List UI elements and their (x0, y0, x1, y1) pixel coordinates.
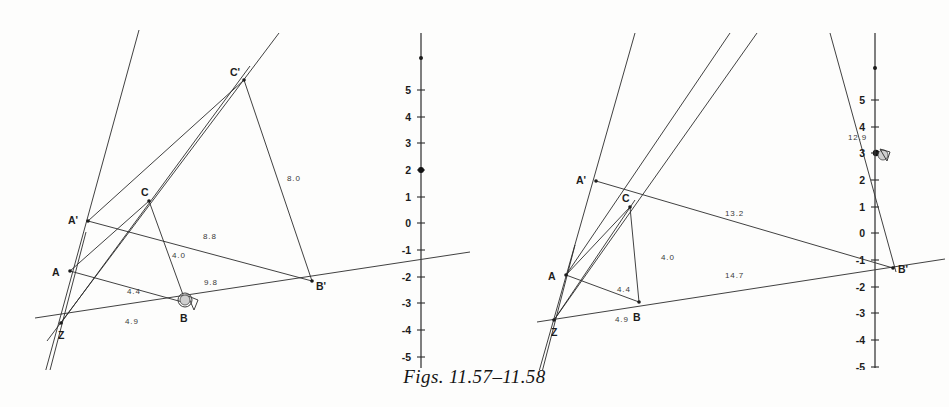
segment-a-prime-b-prime (88, 221, 312, 281)
vertex-dots-left (59, 78, 314, 325)
construction-rays-right (537, 33, 945, 370)
tick-label-5: 5 (859, 94, 865, 106)
tick-label-4: 4 (859, 121, 865, 133)
length-label-b-b-prime: 9.8 (204, 278, 218, 287)
y-axis-right: 5 4 3 2 1 0 -1 -2 -3 -4 -5 (856, 33, 879, 370)
axis-marked-point-2 (418, 167, 424, 173)
ray-z-through-upper-right (566, 33, 730, 275)
point-label-a: A (548, 270, 556, 282)
ray-z-c (554, 200, 635, 320)
segment-a-prime-b-prime (596, 181, 893, 268)
axis-marked-point-top (873, 66, 877, 70)
length-label-a-prime-b-prime: 13.2 (725, 209, 744, 218)
tick-label-1: 1 (405, 191, 411, 203)
point-label-a-prime: A' (576, 174, 586, 186)
triangle-a-prime-b-prime-c-prime (88, 80, 312, 281)
point-label-b-prime: B' (316, 280, 326, 292)
length-label-b-c: 4.0 (172, 251, 186, 260)
tick-label-3: 3 (859, 147, 865, 159)
length-label-b-b-prime: 14.7 (725, 271, 744, 280)
figure-caption: Figs. 11.57–11.58 (0, 366, 949, 388)
ray-z-c-c-prime (61, 66, 250, 323)
tick-label-1: 1 (859, 201, 865, 213)
tick-label-0: 0 (859, 227, 865, 239)
point-label-c: C (141, 186, 149, 198)
figure-left-canvas: 5 4 3 2 1 0 -1 -2 -3 -4 -5 (0, 0, 475, 370)
tick-label-m4: -4 (856, 334, 865, 346)
point-label-a: A (52, 266, 60, 278)
tick-label-2: 2 (859, 174, 865, 186)
tick-label-m3: -3 (856, 307, 865, 319)
point-label-c-prime: C' (230, 66, 240, 78)
tick-label-m5: -5 (402, 351, 411, 363)
point-label-b: B (633, 311, 641, 323)
point-label-z: Z (58, 329, 65, 341)
length-label-b-prime-c-prime: 8.0 (287, 174, 301, 183)
figure-right-panel: 5 4 3 2 1 0 -1 -2 -3 -4 -5 (475, 0, 949, 370)
length-label-z-b: 4.9 (615, 315, 629, 324)
point-marker-at-b (178, 293, 192, 307)
triangle-a-prime-b-prime-right (596, 181, 893, 268)
tick-label-m3: -3 (402, 297, 411, 309)
figure-left-panel: 5 4 3 2 1 0 -1 -2 -3 -4 -5 (0, 0, 475, 370)
tick-label-m1: -1 (856, 254, 865, 266)
tick-label-2: 2 (405, 164, 411, 176)
length-label-a-prime-b-prime: 8.8 (203, 232, 217, 241)
segment-b-c (630, 207, 639, 302)
tick-label-m2: -2 (856, 281, 865, 293)
figure-right-canvas: 5 4 3 2 1 0 -1 -2 -3 -4 -5 (475, 0, 949, 370)
ray-z-long-down (49, 232, 86, 370)
tick-label-m4: -4 (402, 324, 411, 336)
tick-label-0: 0 (405, 217, 411, 229)
y-axis-left: 5 4 3 2 1 0 -1 -2 -3 -4 -5 (402, 33, 425, 368)
segment-a-c (70, 201, 149, 271)
length-label-a-b: 4.4 (127, 287, 141, 296)
length-label-a-b: 4.4 (617, 285, 631, 294)
tick-label-5: 5 (405, 84, 411, 96)
tick-label-4: 4 (405, 111, 411, 123)
ray-z-through-b-prime (537, 259, 945, 322)
ray-z-long-down (541, 245, 575, 370)
figure-page: 5 4 3 2 1 0 -1 -2 -3 -4 -5 (0, 0, 949, 407)
tick-label-m1: -1 (402, 244, 411, 256)
tick-label-3: 3 (405, 137, 411, 149)
point-label-z: Z (551, 326, 558, 338)
point-label-b-prime: B' (898, 263, 908, 275)
length-label-12-9: 12.9 (848, 133, 867, 142)
point-label-c: C (622, 192, 630, 204)
segment-a-prime-c-prime (88, 80, 244, 221)
length-label-b-c: 4.0 (661, 253, 675, 262)
point-label-a-prime: A' (68, 214, 78, 226)
axis-marked-point-top (419, 56, 423, 60)
point-label-b: B (180, 312, 188, 324)
segment-b-prime-c-prime (244, 80, 312, 281)
length-label-z-b: 4.9 (125, 317, 139, 326)
tick-label-m2: -2 (402, 271, 411, 283)
